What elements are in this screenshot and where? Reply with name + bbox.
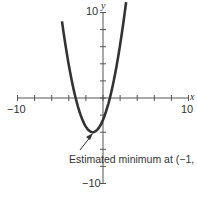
y-max-label: 10 (86, 6, 98, 17)
x-max-label: 10 (181, 104, 193, 115)
y-min-label: −10 (82, 178, 101, 189)
x-min-label: −10 (7, 104, 26, 115)
annotation-arrow (80, 133, 93, 150)
annotation-label: Estimated minimum at (−1, −4) (69, 154, 197, 165)
y-axis-label: y (101, 1, 105, 11)
chart-container: −10 10 10 −10 x y Estimated minimum at (… (0, 0, 197, 197)
parabola-curve (62, 2, 126, 132)
x-axis-label: x (190, 92, 194, 102)
plot-svg (0, 0, 197, 197)
